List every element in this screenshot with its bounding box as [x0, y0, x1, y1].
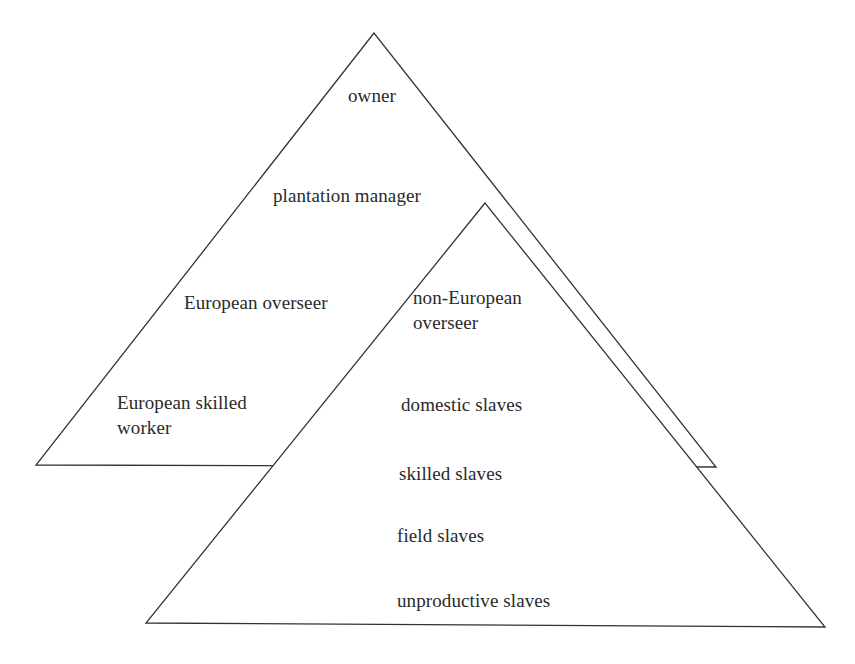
- label-european-overseer: European overseer: [184, 290, 328, 315]
- label-skilled-slaves: skilled slaves: [399, 461, 502, 486]
- label-domestic-slaves: domestic slaves: [401, 392, 522, 417]
- label-unproductive-slaves: unproductive slaves: [397, 588, 550, 613]
- label-non-european-overseer: non-European overseer: [413, 285, 522, 335]
- label-european-skilled-worker: European skilled worker: [117, 390, 247, 440]
- label-plantation-manager: plantation manager: [273, 183, 421, 208]
- label-owner: owner: [348, 83, 396, 108]
- label-field-slaves: field slaves: [397, 523, 484, 548]
